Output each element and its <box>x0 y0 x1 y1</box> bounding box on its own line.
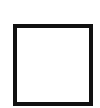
canvas <box>0 0 100 108</box>
square-outline-icon <box>13 24 93 106</box>
